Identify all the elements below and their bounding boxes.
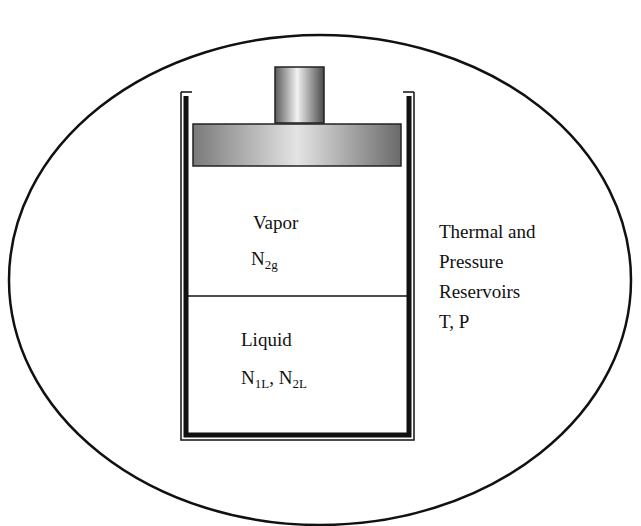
species-subscript: 1L xyxy=(255,376,269,391)
diagram-canvas xyxy=(0,0,641,526)
vapor-species: N2g xyxy=(251,249,278,271)
species-base: N xyxy=(241,367,255,388)
species-subscript: 2L xyxy=(292,376,306,391)
reservoir-line: Pressure xyxy=(439,252,536,271)
reservoir-line: Thermal and xyxy=(439,222,536,241)
piston-rod xyxy=(275,67,324,123)
piston-head xyxy=(193,124,401,166)
reservoir-line: Reservoirs xyxy=(439,282,536,301)
species-base: N xyxy=(251,248,265,269)
liquid-label: Liquid xyxy=(241,330,292,349)
liquid-species: N1L, N2L xyxy=(241,368,307,390)
vapor-label: Vapor xyxy=(253,213,298,232)
reservoir-label: Thermal and Pressure Reservoirs T, P xyxy=(439,222,536,331)
species-separator: , xyxy=(269,367,279,388)
reservoir-line: T, P xyxy=(439,312,536,331)
species-subscript: 2g xyxy=(265,257,278,272)
species-base: N xyxy=(279,367,293,388)
